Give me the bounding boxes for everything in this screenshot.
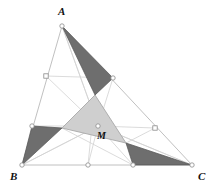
dark-triangle-group (22, 26, 192, 165)
cevian-group (22, 26, 192, 165)
dark-triangle-top (62, 26, 113, 95)
cevian-c-to-ab (46, 76, 192, 165)
vertex-marker-b (20, 163, 24, 167)
geometry-canvas: A B C M (0, 0, 214, 187)
label-c: C (198, 170, 206, 182)
p-ab-lower (30, 124, 34, 128)
label-a: A (57, 5, 65, 17)
p-ac-upper (111, 76, 115, 80)
geometry-figure: A B C M (0, 0, 214, 187)
central-light-triangle (62, 95, 126, 143)
p-bc-left (86, 163, 90, 167)
vertex-marker-a (60, 24, 64, 28)
dark-triangle-left (22, 126, 62, 165)
vertex-marker-c (190, 163, 194, 167)
p-bc-right (131, 163, 135, 167)
connector-inner-right-to-ac-lower (126, 128, 155, 143)
triangle-outline-group (22, 26, 192, 165)
p-ab-upper (44, 74, 48, 78)
p-ac-lower (153, 126, 157, 130)
label-b: B (9, 170, 17, 182)
label-m: M (96, 130, 107, 141)
vertex-marker-m (96, 124, 100, 128)
point-marker-group (20, 24, 194, 167)
